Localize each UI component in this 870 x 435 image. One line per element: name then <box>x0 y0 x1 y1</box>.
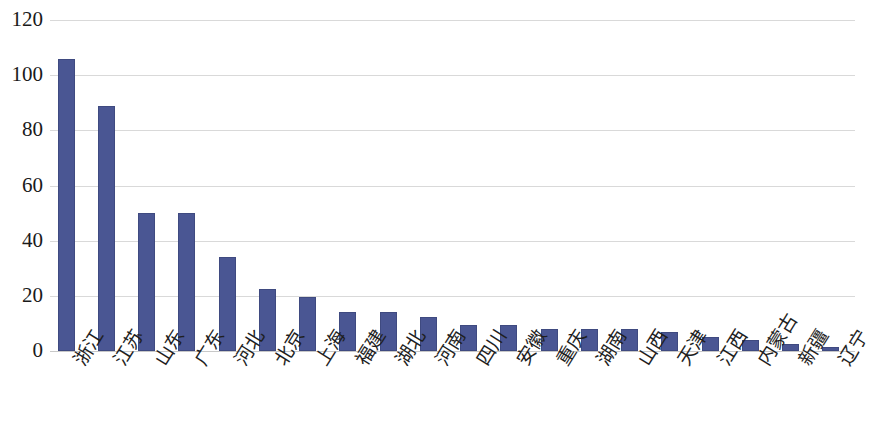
y-axis-tick-label: 100 <box>0 64 43 85</box>
y-axis-tick-label: 0 <box>0 340 43 361</box>
bar <box>98 106 115 351</box>
y-axis-tick-label: 120 <box>0 9 43 30</box>
x-axis-labels: 浙江江苏山东广东河北北京上海福建湖北河南四川安徽重庆湖南山西天津江西内蒙古新疆辽… <box>50 351 855 435</box>
y-axis-tick-label: 60 <box>0 175 43 196</box>
bar <box>58 59 75 351</box>
y-axis-tick-label: 20 <box>0 285 43 306</box>
plot-area: 020406080100120 <box>50 20 855 351</box>
y-axis-tick-label: 40 <box>0 230 43 251</box>
bar <box>138 213 155 351</box>
y-axis-tick-label: 80 <box>0 119 43 140</box>
bars-layer <box>50 20 855 351</box>
bar <box>178 213 195 351</box>
